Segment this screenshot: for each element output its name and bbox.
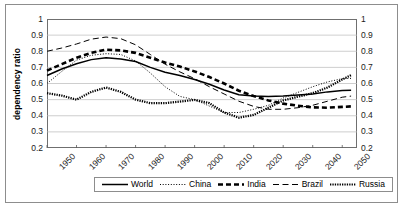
y-tick-label-left: 0.9 [31,31,43,40]
legend-label: Brazil [302,180,323,189]
legend-item-china[interactable]: China [160,180,211,189]
legend-item-russia[interactable]: Russia [330,180,385,189]
legend-label: China [189,180,211,189]
y-axis-title-label: dependency ratio [12,48,22,120]
y-tick-label-right: 0.4 [361,111,373,120]
legend-swatch-india [218,180,244,189]
y-tick-label-left: 0.7 [31,63,43,72]
series-line-india [47,50,351,108]
y-tick-label-left: 1 [38,15,43,24]
series-line-china [47,54,351,113]
chart-legend: WorldChinaIndiaBrazilRussia [94,177,393,192]
legend-label: India [247,180,265,189]
y-tick-label-left: 0.3 [31,127,43,136]
y-tick-label-right: 0.7 [361,63,373,72]
series-layer [47,19,357,148]
y-tick-label-left: 0.5 [31,95,43,104]
y-tick-label-left: 0.8 [31,47,43,56]
y-tick-label-left: 0.6 [31,79,43,88]
legend-swatch-world [102,180,128,189]
y-tick-label-right: 0.9 [361,31,373,40]
y-tick-label-right: 0.3 [361,127,373,136]
series-line-brazil [47,37,351,109]
y-axis-title: dependency ratio [11,19,23,148]
y-tick-label-right: 0.8 [361,47,373,56]
legend-swatch-russia [330,180,356,189]
legend-label: Russia [359,180,385,189]
legend-item-india[interactable]: India [218,180,265,189]
legend-label: World [131,180,153,189]
legend-swatch-china [160,180,186,189]
y-tick-label-right: 0.5 [361,95,373,104]
chart-figure: dependency ratio 0.20.30.40.50.60.70.80.… [0,0,405,210]
legend-item-world[interactable]: World [102,180,153,189]
y-tick-label-left: 0.4 [31,111,43,120]
legend-item-brazil[interactable]: Brazil [273,180,323,189]
legend-swatch-brazil [273,180,299,189]
y-tick-label-right: 0.2 [361,144,373,153]
y-tick-label-right: 0.6 [361,79,373,88]
y-tick-label-left: 0.2 [31,144,43,153]
y-tick-label-right: 1 [361,15,366,24]
plot-area: 0.20.30.40.50.60.70.80.91 0.20.30.40.50.… [47,19,357,148]
